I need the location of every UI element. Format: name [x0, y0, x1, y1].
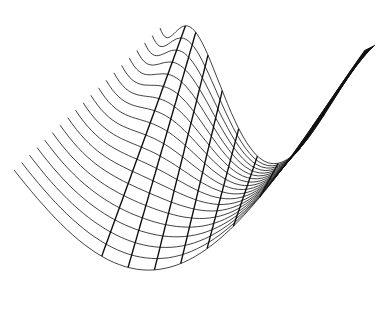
surface-rib-line	[106, 47, 371, 182]
surface-cross-curves	[102, 26, 325, 270]
surface-rib-line	[45, 49, 367, 227]
surface-rib-line	[129, 46, 373, 173]
surface-rib-line	[29, 50, 366, 248]
surface-rib-line	[137, 46, 374, 171]
surface-cross-line	[312, 114, 324, 126]
surface-cross-line	[128, 32, 196, 267]
wireframe-surface-plot	[0, 0, 388, 324]
surface-cross-line	[102, 26, 186, 256]
surface-ribs	[14, 26, 375, 270]
surface-cross-line	[286, 147, 301, 163]
surface-rib-line	[76, 48, 370, 199]
surface-rib-line	[99, 47, 371, 186]
surface-rib-line	[14, 50, 365, 270]
surface-rib-line	[145, 43, 374, 168]
surface-rib-line	[68, 48, 369, 204]
